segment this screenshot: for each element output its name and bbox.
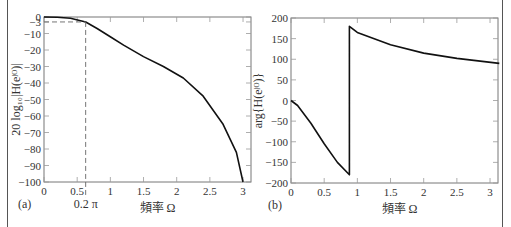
x-tick-label: 2 xyxy=(174,185,180,197)
x-tick-label: 1 xyxy=(355,186,361,198)
plot-area xyxy=(291,18,498,183)
x-tick-label: 2.5 xyxy=(450,186,464,198)
y-tick-label: 0 xyxy=(283,95,289,107)
y-tick-label: −100 xyxy=(265,136,288,148)
cutoff-annotation: 0.2 π xyxy=(74,197,98,211)
x-tick-label: 0.5 xyxy=(70,185,84,197)
y-tick-label: 150 xyxy=(272,33,289,45)
y-tick-label: −40 xyxy=(24,77,42,89)
y-tick-label: −150 xyxy=(265,156,288,168)
y-tick-label: −200 xyxy=(265,177,288,189)
y-tick-label: −60 xyxy=(24,110,42,122)
y-tick-label: −90 xyxy=(24,160,42,172)
x-tick-label: 0.5 xyxy=(317,186,331,198)
panel-a-tag: (a) xyxy=(18,197,31,211)
x-tick-label: 0 xyxy=(288,186,294,198)
y-tick-label: 200 xyxy=(272,12,289,24)
x-tick-label: 0 xyxy=(41,185,47,197)
phase-chart: 00.511.522.53200150100500−50−100−150−200… xyxy=(251,12,499,216)
y-tick-label: −80 xyxy=(24,143,42,155)
plot-area xyxy=(44,17,251,182)
x-tick-label: 3 xyxy=(240,185,246,197)
x-tick-label: 1.5 xyxy=(137,185,151,197)
figure-svg: 00.511.522.530−3−10−20−30−40−50−60−70−80… xyxy=(0,0,511,227)
phase-curve xyxy=(291,26,499,175)
y-tick-label: −100 xyxy=(18,176,41,188)
y-tick-label: −3 xyxy=(29,16,41,28)
y-tick-label: −70 xyxy=(24,127,42,139)
y-tick-label: −30 xyxy=(24,61,42,73)
y-axis-label-a: 20 log₁₀|H(eʲᴼ)| xyxy=(9,63,23,135)
y-tick-label: 50 xyxy=(277,74,289,86)
y-tick-label: −10 xyxy=(24,28,42,40)
x-tick-label: 2 xyxy=(421,186,427,198)
y-tick-label: −20 xyxy=(24,44,42,56)
y-tick-label: −50 xyxy=(24,94,42,106)
magnitude-chart: 00.511.522.530−3−10−20−30−40−50−60−70−80… xyxy=(9,11,251,215)
x-axis-label-a: 頻率 Ω xyxy=(140,200,176,215)
y-tick-label: −50 xyxy=(271,115,289,127)
x-tick-label: 1.5 xyxy=(384,186,398,198)
magnitude-curve xyxy=(44,17,243,182)
x-tick-label: 3 xyxy=(487,186,493,198)
y-axis-label-b: arg{H(eʲᴼ)} xyxy=(251,73,265,129)
x-tick-label: 1 xyxy=(108,185,114,197)
x-axis-label-b: 頻率 Ω xyxy=(382,201,418,216)
panel-b-tag: (b) xyxy=(268,198,282,212)
x-tick-label: 2.5 xyxy=(203,185,217,197)
y-tick-label: 100 xyxy=(272,53,289,65)
